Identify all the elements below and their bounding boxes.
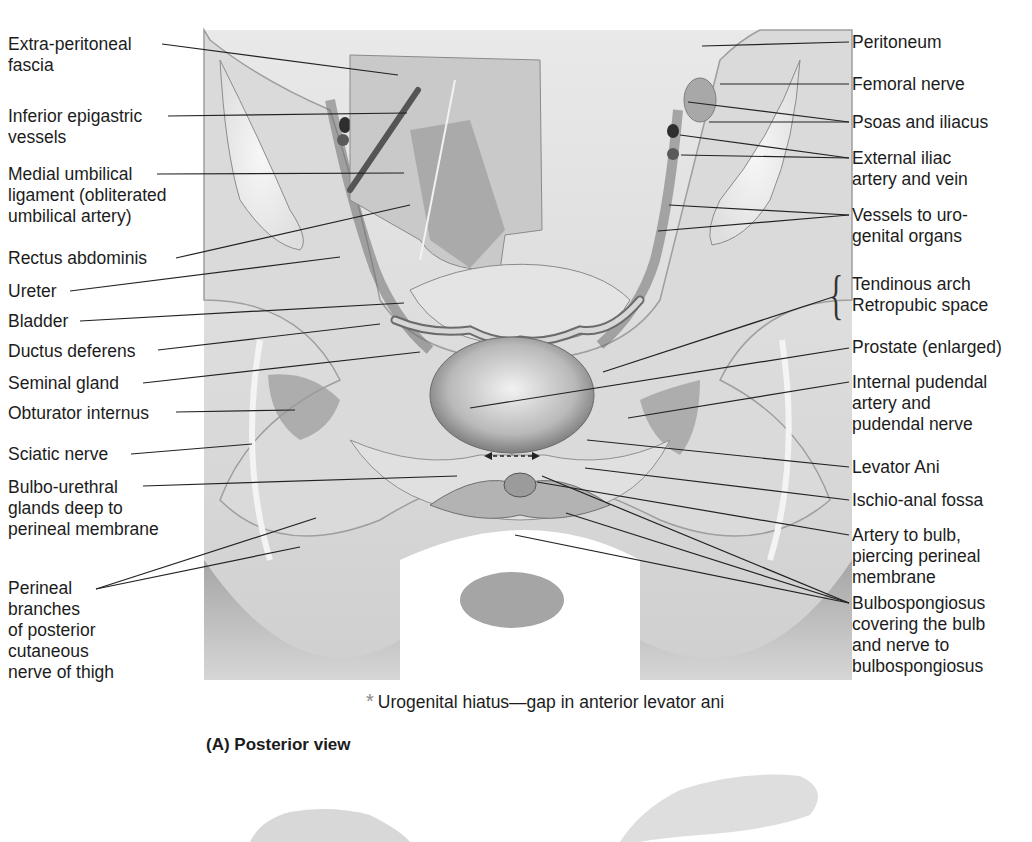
label-line: Vessels to uro- [852,205,968,226]
curly-brace-icon: { [829,268,843,322]
label-line: and nerve to [852,635,985,656]
svg-text:*: * [509,448,515,464]
label-line: Retropubic space [852,295,988,316]
label-line: Perineal [8,578,114,599]
label-seminal-gland: Seminal gland [8,373,119,394]
prostate-shape [430,337,594,453]
label-line: Seminal gland [8,373,119,394]
anatomy-figure: * [0,0,1032,842]
label-line: fascia [8,55,132,76]
label-line: artery and [852,393,987,414]
label-line: Sciatic nerve [8,444,108,465]
footnote: *Urogenital hiatus—gap in anterior levat… [366,690,724,713]
label-prostate: Prostate (enlarged) [852,337,1002,358]
label-ischio-anal-fossa: Ischio-anal fossa [852,490,983,511]
label-levator-ani: Levator Ani [852,457,940,478]
label-line: membrane [852,567,980,588]
figure-caption: (A) Posterior view [206,735,351,755]
label-line: Extra-peritoneal [8,34,132,55]
label-sciatic-nerve: Sciatic nerve [8,444,108,465]
label-internal-pudendal: Internal pudendal artery and pudendal ne… [852,372,987,435]
label-tendinous-arch: Tendinous arch Retropubic space [852,274,988,316]
label-rectus-abdominis: Rectus abdominis [8,248,147,269]
label-line: Artery to bulb, [852,525,980,546]
label-line: branches [8,599,114,620]
label-line: Bladder [8,311,68,332]
label-inferior-epigastric-vessels: Inferior epigastric vessels [8,106,142,148]
label-bladder: Bladder [8,311,68,332]
label-line: covering the bulb [852,614,985,635]
footnote-text: Urogenital hiatus—gap in anterior levato… [378,692,724,712]
label-line: Bulbospongiosus [852,593,985,614]
label-line: of posterior [8,620,114,641]
label-line: Medial umbilical [8,164,167,185]
label-line: Femoral nerve [852,74,965,95]
label-line: Ductus deferens [8,341,135,362]
label-line: umbilical artery) [8,206,167,227]
label-line: perineal membrane [8,519,159,540]
label-psoas-and-iliacus: Psoas and iliacus [852,112,988,133]
label-artery-to-bulb: Artery to bulb, piercing perineal membra… [852,525,980,588]
label-line: pudendal nerve [852,414,987,435]
label-vessels-urogenital: Vessels to uro- genital organs [852,205,968,247]
label-line: Ischio-anal fossa [852,490,983,511]
label-line: nerve of thigh [8,662,114,683]
label-line: Inferior epigastric [8,106,142,127]
label-line: Obturator internus [8,403,149,424]
asterisk-icon: * [366,690,374,712]
label-line: bulbospongiosus [852,656,985,677]
label-line: Levator Ani [852,457,940,478]
label-obturator-internus: Obturator internus [8,403,149,424]
label-line: piercing perineal [852,546,980,567]
label-line: Psoas and iliacus [852,112,988,133]
label-perineal-branches: Perineal branches of posterior cutaneous… [8,578,114,683]
label-peritoneum: Peritoneum [852,32,942,53]
label-ductus-deferens: Ductus deferens [8,341,135,362]
label-extra-peritoneal-fascia: Extra-peritoneal fascia [8,34,132,76]
label-line: vessels [8,127,142,148]
label-line: Internal pudendal [852,372,987,393]
label-line: Prostate (enlarged) [852,337,1002,358]
label-bulbospongiosus: Bulbospongiosus covering the bulb and ne… [852,593,985,677]
label-medial-umbilical-ligament: Medial umbilical ligament (obliterated u… [8,164,167,227]
next-figure-preview [250,775,818,842]
label-external-iliac: External iliac artery and vein [852,148,968,190]
label-line: glands deep to [8,498,159,519]
label-line: Peritoneum [852,32,942,53]
label-line: Ureter [8,281,57,302]
label-bulbo-urethral-glands: Bulbo-urethral glands deep to perineal m… [8,477,159,540]
label-line: artery and vein [852,169,968,190]
label-line: External iliac [852,148,968,169]
label-ureter: Ureter [8,281,57,302]
label-line: ligament (obliterated [8,185,167,206]
label-line: Rectus abdominis [8,248,147,269]
label-line: genital organs [852,226,968,247]
label-line: Bulbo-urethral [8,477,159,498]
label-line: Tendinous arch [852,274,988,295]
label-line: cutaneous [8,641,114,662]
label-femoral-nerve: Femoral nerve [852,74,965,95]
